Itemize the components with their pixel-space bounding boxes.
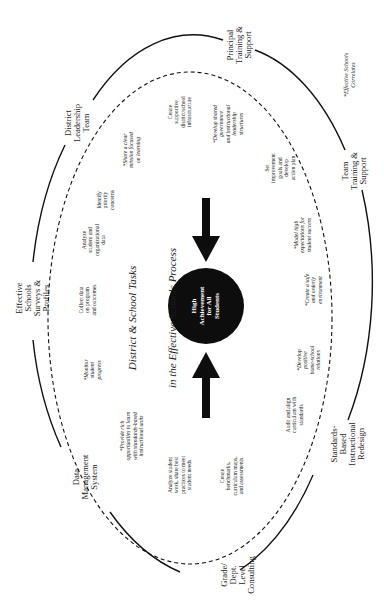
effective-schools-diagram: High Achievement for All Students Distri… [0, 0, 384, 604]
task-audit-curriculum: Audit and align curriculum with standard… [285, 397, 304, 433]
arrow-down-shaft [202, 198, 210, 238]
task-identify-concerns: Identify priority concerns [96, 190, 115, 210]
outer-label-principal: Principal Training & Support [226, 26, 253, 64]
task-analyze-data: Analyze student and organizational data [81, 224, 107, 256]
outer-label-standards: Standards- Based Instructional Redesign [330, 422, 366, 465]
correlate-provide-opportunities: *Provide rich opportunities to learn wit… [119, 412, 145, 461]
correlate-safe-environment: *Create a safe and orderly environment [304, 274, 323, 306]
title-line-2: in the Effective Schools Process [166, 248, 179, 388]
task-analyze-student-work: Analyze student work, share best practic… [167, 456, 193, 494]
correlate-clear-mission: *Share a clear mission focused on learni… [122, 132, 141, 168]
task-set-goals: Set improvement goals and develop action… [264, 153, 296, 183]
diagram-title: District & School Tasks in the Effective… [100, 248, 206, 388]
title-line-1: District & School Tasks [127, 248, 140, 388]
outer-label-surveys: Effective Schools Surveys & Profiles [15, 280, 51, 317]
outer-label-grade-consulting: Grade/ Dept. Level Consulting [220, 556, 256, 594]
task-create-benchmarks: Create benchmarks, curriculum maps, and … [219, 456, 245, 495]
correlate-monitor-progress: *Monitor student progress [83, 359, 102, 380]
task-create-infrastructure: Create supportive district/school infras… [167, 96, 193, 128]
correlate-home-school: *Develop positive home-school relations [296, 346, 322, 375]
outer-label-district: District Leadership Team [64, 104, 91, 142]
footnote-correlates: *Effective Schools Correlates [343, 53, 357, 97]
task-collect-data: Collect data on program and outcomes [78, 285, 97, 316]
outer-label-team-training: Team Training & Support [341, 152, 368, 190]
correlate-shared-governance: *Develop shared governance and instructi… [212, 105, 244, 143]
outer-label-data-management: Data Management System [72, 455, 99, 500]
correlate-high-expectations: *Model high expectations for student suc… [293, 217, 312, 253]
